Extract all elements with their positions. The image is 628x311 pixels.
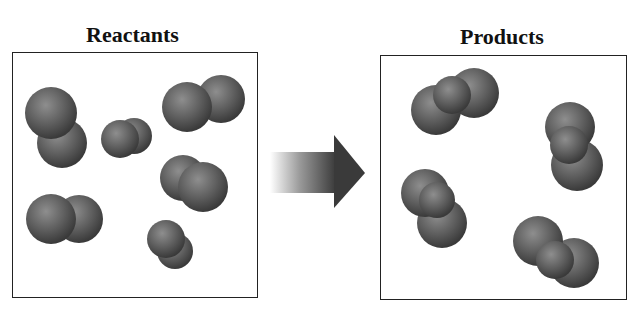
product-molecule-3: [401, 169, 467, 248]
reaction-arrow-icon: [270, 135, 365, 208]
reactant-molecule-3: [162, 75, 245, 132]
product-molecule-1: [411, 68, 499, 135]
reactant-molecule-2: [101, 118, 152, 158]
product-molecule-2: [545, 102, 603, 191]
reactant-molecule-1: [25, 87, 87, 168]
reactant-molecule-4: [160, 155, 228, 212]
product-molecule-4: [513, 216, 599, 288]
reactant-molecule-5: [26, 194, 103, 244]
molecule-diagram: [0, 0, 628, 311]
reactant-molecule-6: [147, 220, 193, 269]
